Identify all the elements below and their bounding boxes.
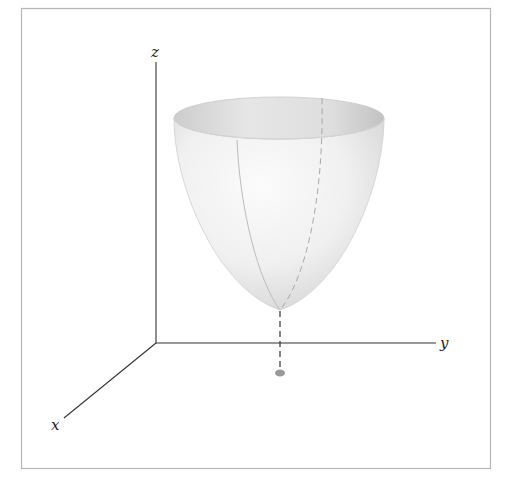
paraboloid-diagram: z y x xyxy=(0,0,514,496)
y-axis-label: y xyxy=(439,334,449,352)
projection-point xyxy=(275,370,285,377)
x-axis xyxy=(64,343,156,418)
z-axis-label: z xyxy=(150,43,159,61)
paraboloid-surface xyxy=(174,118,384,310)
x-axis-label: x xyxy=(51,416,60,434)
